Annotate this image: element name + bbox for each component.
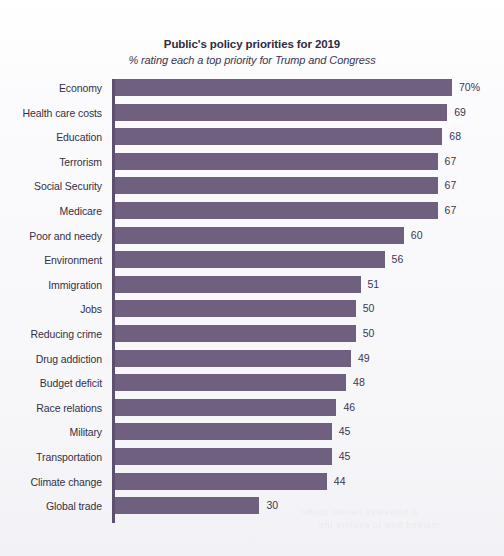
- bar-category-label: Drug addiction: [0, 352, 102, 367]
- bar-value-label: 50: [363, 301, 375, 316]
- bar-category-label: Climate change: [0, 475, 102, 490]
- bar: [115, 300, 356, 317]
- bar-row: Health care costs69: [0, 104, 504, 128]
- bar-value-label: 68: [449, 129, 461, 144]
- plot-area: Economy70%Health care costs69Education68…: [0, 79, 504, 523]
- bar: [115, 448, 332, 465]
- bar-row: Drug addiction49: [0, 350, 504, 374]
- bar: [115, 128, 442, 145]
- bar-row: Economy70%: [0, 79, 504, 103]
- bar: [115, 153, 438, 170]
- bar-category-label: Immigration: [0, 278, 102, 293]
- chart-title: Public's policy priorities for 2019: [0, 38, 504, 50]
- bar-value-label: 46: [343, 400, 355, 415]
- bar: [115, 497, 259, 514]
- bar-value-label: 45: [339, 424, 351, 439]
- bar-value-label: 44: [334, 474, 346, 489]
- bar-category-label: Education: [0, 130, 102, 145]
- bar-row: Transportation45: [0, 448, 504, 472]
- bar: [115, 227, 404, 244]
- bar-category-label: Budget deficit: [0, 376, 102, 391]
- bar-row: Immigration51: [0, 276, 504, 300]
- bar-row: Reducing crime50: [0, 325, 504, 349]
- bar: [115, 350, 351, 367]
- bar-row: Budget deficit48: [0, 374, 504, 398]
- bar: [115, 251, 385, 268]
- bar-row: Medicare67: [0, 202, 504, 226]
- bar-category-label: Global trade: [0, 499, 102, 514]
- bar: [115, 423, 332, 440]
- bar: [115, 325, 356, 342]
- bar: [115, 276, 361, 293]
- bar-category-label: Medicare: [0, 204, 102, 219]
- bar-row: Jobs50: [0, 300, 504, 324]
- bar-category-label: Social Security: [0, 179, 102, 194]
- bar-category-label: Poor and needy: [0, 229, 102, 244]
- bar-category-label: Terrorism: [0, 155, 102, 170]
- bar-value-label: 50: [363, 326, 375, 341]
- bar-value-label: 56: [392, 252, 404, 267]
- bar: [115, 399, 336, 416]
- bar-value-label: 67: [445, 203, 457, 218]
- bar-row: Social Security67: [0, 177, 504, 201]
- bar-row: Climate change44: [0, 473, 504, 497]
- bar-category-label: Transportation: [0, 450, 102, 465]
- bar-value-label: 60: [411, 228, 423, 243]
- bar-value-label: 51: [368, 277, 380, 292]
- bar-category-label: Economy: [0, 81, 102, 96]
- bar-value-label: 67: [445, 178, 457, 193]
- bar-category-label: Reducing crime: [0, 327, 102, 342]
- bar: [115, 374, 346, 391]
- bar-value-label: 69: [454, 105, 466, 120]
- bar-row: Poor and needy60: [0, 227, 504, 251]
- bar-chart-figure: Public's policy priorities for 2019 % ra…: [0, 0, 504, 556]
- bar-row: Race relations46: [0, 399, 504, 423]
- bar-row: Environment56: [0, 251, 504, 275]
- bar-row: Education68: [0, 128, 504, 152]
- bar-category-label: Environment: [0, 253, 102, 268]
- bar-row: Global trade30: [0, 497, 504, 521]
- bar-value-label: 67: [445, 154, 457, 169]
- bar-row: Terrorism67: [0, 153, 504, 177]
- chart-subtitle: % rating each a top priority for Trump a…: [0, 54, 504, 66]
- bar-value-label: 48: [353, 375, 365, 390]
- bar-category-label: Military: [0, 425, 102, 440]
- bar-value-label: 30: [266, 498, 278, 513]
- bar-value-label: 70%: [459, 80, 480, 95]
- bar: [115, 104, 447, 121]
- bar-value-label: 45: [339, 449, 351, 464]
- bar-row: Military45: [0, 423, 504, 447]
- bar-value-label: 49: [358, 351, 370, 366]
- bar-category-label: Jobs: [0, 302, 102, 317]
- bar: [115, 177, 438, 194]
- bar: [115, 202, 438, 219]
- bar-category-label: Health care costs: [0, 106, 102, 121]
- bar: [115, 473, 327, 490]
- bar: [115, 79, 452, 96]
- bar-category-label: Race relations: [0, 401, 102, 416]
